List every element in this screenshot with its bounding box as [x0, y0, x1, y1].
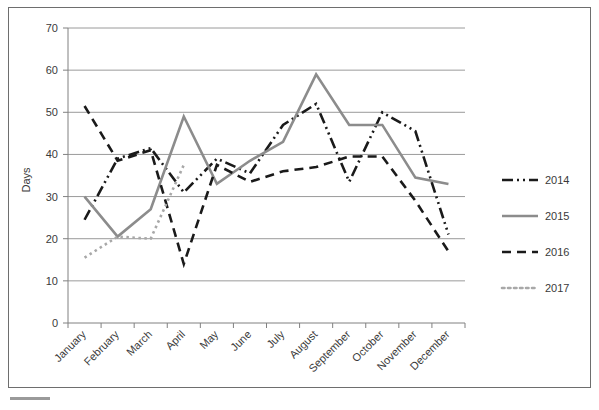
x-tick-label: August	[287, 328, 320, 361]
gridlines	[68, 28, 465, 281]
axes	[63, 28, 465, 328]
y-axis-title: Days	[20, 167, 32, 193]
series-line-2017	[85, 165, 184, 258]
y-tick-label: 40	[46, 148, 58, 160]
x-tick-label: February	[81, 328, 121, 368]
legend-label-2017: 2017	[545, 282, 569, 294]
y-tick-label: 30	[46, 191, 58, 203]
y-tick-label: 70	[46, 22, 58, 34]
chart-figure: 010203040506070 JanuaryFebruaryMarchApri…	[0, 0, 599, 410]
y-tick-label: 60	[46, 64, 58, 76]
chart-legend: 2014201520162017	[502, 174, 569, 294]
line-chart: 010203040506070 JanuaryFebruaryMarchApri…	[0, 0, 599, 410]
series-line-2014	[85, 104, 449, 235]
legend-label-2016: 2016	[545, 246, 569, 258]
x-tick-label: July	[264, 328, 287, 351]
x-tick-label: April	[163, 328, 187, 352]
series-line-2015	[85, 74, 449, 236]
legend-label-2014: 2014	[545, 174, 569, 186]
legend-label-2015: 2015	[545, 210, 569, 222]
x-tick-labels: JanuaryFebruaryMarchAprilMayJuneJulyAugu…	[52, 328, 452, 375]
series-line-2016	[85, 106, 449, 264]
y-tick-label: 0	[52, 317, 58, 329]
y-tick-label: 10	[46, 275, 58, 287]
series-lines	[85, 74, 449, 264]
x-tick-label: March	[124, 328, 154, 358]
x-tick-label: May	[197, 328, 221, 352]
y-tick-label: 50	[46, 106, 58, 118]
y-tick-labels: 010203040506070	[46, 22, 58, 329]
y-tick-label: 20	[46, 233, 58, 245]
x-tick-label: June	[228, 328, 253, 353]
